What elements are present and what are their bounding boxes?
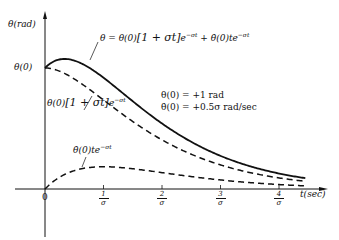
condition-thetadot0: θ̇(0) = +0.5σ rad/sec xyxy=(161,103,257,112)
x-tick-4: 4σ xyxy=(274,190,284,207)
x-axis-label: t(sec) xyxy=(300,190,326,199)
y-axis-arrow-icon xyxy=(43,11,47,19)
x-ticks xyxy=(104,185,280,189)
x-tick-1: 1σ xyxy=(99,190,109,207)
x-tick-origin: 0 xyxy=(42,193,48,202)
label-initial-velocity-response: θ̇(0)te−σt xyxy=(73,144,112,155)
label-initial-position-response: θ(0)[1 + σt]e−σt xyxy=(47,97,126,108)
curve-initial-position xyxy=(45,68,305,181)
condition-theta0: θ(0) = +1 rad xyxy=(161,91,224,100)
x-tick-3: 3σ xyxy=(216,190,226,207)
x-tick-2: 2σ xyxy=(157,190,167,207)
curve-total-response xyxy=(45,59,305,178)
y-tick-theta0: θ(0) xyxy=(14,63,32,72)
label-total-response: θ = θ(0)[1 + σt]e−σt + θ̇(0)te−σt xyxy=(100,32,249,43)
y-axis-label: θ(rad) xyxy=(8,20,36,29)
